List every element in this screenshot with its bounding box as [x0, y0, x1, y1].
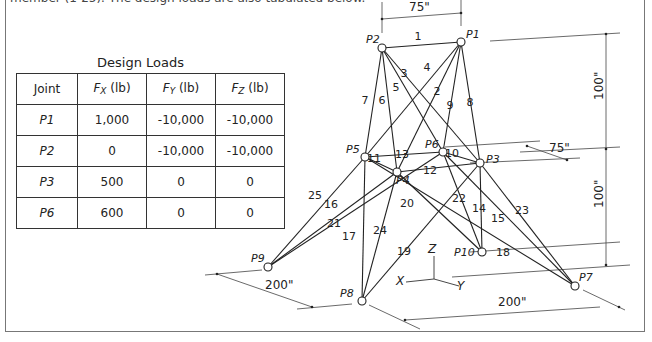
joint-p8-icon	[358, 297, 366, 305]
member-label: 12	[423, 164, 437, 177]
member-5	[382, 48, 443, 152]
dim-right-width: 75"	[549, 141, 570, 155]
member-label: 19	[397, 245, 411, 258]
member-20	[397, 172, 482, 252]
joint-p5-icon	[361, 153, 369, 161]
truss-diagram: 1234567891011121314151617181920212223242…	[0, 0, 652, 342]
joint-p6-icon	[439, 148, 447, 156]
member-15	[443, 152, 575, 286]
joint-label: P6	[425, 138, 439, 151]
joint-label: P2	[366, 33, 380, 46]
member-label: 25	[308, 189, 322, 202]
member-label: 9	[447, 99, 454, 112]
member-17	[362, 157, 365, 301]
joint-label: P3	[486, 153, 500, 166]
member-label: 7	[362, 94, 369, 107]
joint-label: P5	[346, 143, 360, 156]
member-label: 3	[401, 67, 408, 80]
axis-z-label: Z	[427, 242, 437, 256]
member-label: 4	[424, 61, 431, 74]
member-21	[268, 152, 443, 267]
joint-label: P7	[579, 271, 593, 284]
member-label: 1	[415, 30, 422, 43]
member-label: 5	[393, 81, 400, 94]
dimension-ticks	[216, 12, 621, 322]
member-label: 15	[491, 212, 505, 225]
member-label: 18	[496, 246, 510, 259]
member-label: 23	[515, 204, 529, 217]
joint-p7-icon	[571, 282, 579, 290]
joint-label: P1	[466, 28, 480, 41]
dim-base-left: 200"	[265, 278, 293, 292]
joint-labels: P1P2P3P4P5P6P7P8P9P10	[251, 28, 593, 300]
dim-base-right: 200"	[498, 295, 526, 309]
dim-lower-height: 100"	[592, 180, 606, 208]
member-9	[443, 42, 461, 152]
member-label: 24	[373, 224, 387, 237]
joint-label: P4	[396, 174, 410, 187]
member-25	[268, 157, 365, 267]
truss-members	[268, 42, 575, 301]
member-label: 17	[342, 230, 356, 243]
member-label: 20	[400, 197, 414, 210]
joint-p9-icon	[264, 263, 272, 271]
axis-y-label: Y	[457, 279, 466, 293]
member-12	[397, 163, 480, 172]
joint-p1-icon	[457, 38, 465, 46]
joint-label: P8	[340, 287, 354, 300]
member-labels: 1234567891011121314151617181920212223242…	[308, 30, 529, 259]
joint-p10-icon	[478, 248, 486, 256]
member-label: 6	[379, 94, 386, 107]
member-label: 13	[395, 148, 409, 161]
member-label: 2	[434, 85, 441, 98]
axis-x-label: X	[395, 274, 405, 288]
joint-label: P10	[454, 246, 475, 259]
joint-label: P9	[251, 252, 265, 265]
dim-upper-height: 100"	[592, 72, 606, 100]
joint-p3-icon	[476, 159, 484, 167]
member-label: 14	[472, 202, 486, 215]
member-label: 22	[452, 192, 466, 205]
member-label: 16	[324, 198, 338, 211]
axis-triad-icon	[406, 256, 459, 286]
dim-top-width: 75"	[409, 0, 430, 14]
member-label: 21	[327, 217, 341, 230]
member-1	[382, 42, 461, 48]
truss-joints	[264, 38, 579, 305]
member-label: 8	[467, 96, 474, 109]
